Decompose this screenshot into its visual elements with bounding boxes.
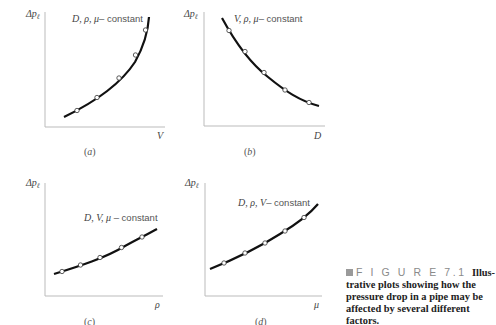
figure-label: F I G U R E 7.1 xyxy=(356,266,467,278)
constant-label: D, ρ, V– constant xyxy=(237,197,310,208)
panel-d: Δpℓ D, ρ, V– constant μ (d) xyxy=(184,177,322,325)
curve xyxy=(222,18,319,106)
x-axis-label: D xyxy=(313,130,322,141)
x-axis-label: μ xyxy=(313,299,319,310)
figure-caption: F I G U R E 7.1 Illus- trative plots sho… xyxy=(346,266,496,325)
panel-sublabel: (a) xyxy=(84,146,96,158)
data-points xyxy=(227,28,311,104)
data-points xyxy=(75,28,148,113)
constant-label: V, ρ, μ– constant xyxy=(234,13,303,24)
panel-c: Δpℓ D, V, μ – constant ρ (c) xyxy=(25,177,163,325)
constant-label: D, V, μ – constant xyxy=(83,212,158,223)
caption-square-icon xyxy=(346,269,353,276)
panel-a: Δpℓ D, ρ, μ– constant V (a) xyxy=(25,8,165,158)
x-axis-label: V xyxy=(157,130,165,141)
y-axis-label: Δpℓ xyxy=(25,8,40,21)
caption-text: trative plots showing how the pressure d… xyxy=(346,279,483,325)
caption-text-start: Illus- xyxy=(472,267,495,278)
constant-label: D, ρ, μ– constant xyxy=(71,13,143,24)
panel-sublabel: (c) xyxy=(84,316,95,325)
curve xyxy=(210,204,318,269)
panel-b: Δpℓ V, ρ, μ– constant D (b) xyxy=(183,8,325,158)
x-axis-label: ρ xyxy=(154,299,160,310)
y-axis-label: Δpℓ xyxy=(183,8,198,21)
panel-sublabel: (b) xyxy=(244,146,256,158)
y-axis-label: Δpℓ xyxy=(25,177,40,190)
curve xyxy=(64,17,149,117)
panel-sublabel: (d) xyxy=(255,316,267,325)
y-axis-label: Δpℓ xyxy=(184,177,199,190)
